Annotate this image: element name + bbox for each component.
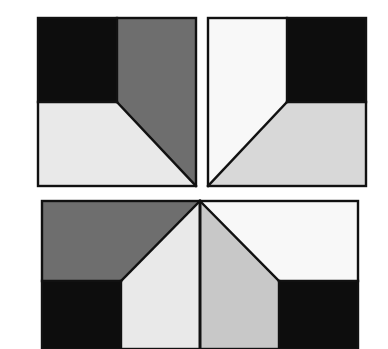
tile-pattern-figure <box>0 0 388 349</box>
tile-top-left-black-quadrant <box>38 18 117 102</box>
tile-bottom-left-black-quadrant <box>42 281 121 349</box>
tile-top-right-black-quadrant <box>287 18 366 102</box>
figure-canvas <box>0 0 388 349</box>
tile-bottom-right-black-quadrant <box>279 281 358 349</box>
